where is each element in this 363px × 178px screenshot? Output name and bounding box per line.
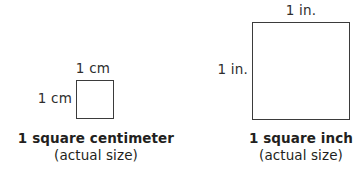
centimeter-caption: 1 square centimeter (actual size) (0, 130, 192, 164)
inch-caption: 1 square inch (actual size) (236, 130, 363, 164)
centimeter-caption-title: 1 square centimeter (0, 130, 192, 147)
centimeter-caption-subtitle: (actual size) (0, 147, 192, 164)
inch-top-dimension-label: 1 in. (252, 2, 350, 18)
inch-square-shape (252, 22, 350, 120)
square-inch-figure: 1 in. 1 in. 1 square inch (actual size) (183, 0, 363, 178)
centimeter-side-dimension-label: 1 cm (22, 90, 72, 106)
centimeter-square-shape (76, 80, 114, 119)
inch-caption-subtitle: (actual size) (236, 147, 363, 164)
centimeter-top-dimension-label: 1 cm (68, 60, 118, 76)
inch-caption-title: 1 square inch (236, 130, 363, 147)
inch-side-dimension-label: 1 in. (200, 61, 248, 77)
square-centimeter-figure: 1 cm 1 cm 1 square centimeter (actual si… (0, 0, 183, 178)
